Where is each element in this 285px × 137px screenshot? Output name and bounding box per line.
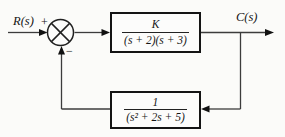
feedback-transfer-block: 1 (s² + 2s + 5) bbox=[110, 91, 201, 129]
forward-denominator: (s + 2)(s + 3) bbox=[122, 32, 189, 47]
input-signal-label: R(s) bbox=[13, 15, 34, 28]
summing-junction-plus-sign: + bbox=[41, 16, 48, 28]
forward-transfer-function: K (s + 2)(s + 3) bbox=[122, 18, 189, 47]
input-arrowhead bbox=[39, 29, 48, 36]
forward-numerator: K bbox=[122, 18, 189, 32]
feedback-block-arrowhead bbox=[201, 106, 210, 113]
feedback-numerator: 1 bbox=[124, 96, 187, 110]
forward-block-arrowhead bbox=[102, 29, 111, 36]
junction-feedback-arrowhead bbox=[58, 46, 65, 55]
summing-junction-minus-sign: − bbox=[66, 45, 73, 57]
block-diagram: K (s + 2)(s + 3) 1 (s² + 2s + 5) R(s) + … bbox=[0, 0, 285, 137]
output-signal-label: C(s) bbox=[236, 11, 258, 24]
summing-junction bbox=[48, 20, 74, 46]
output-arrowhead bbox=[265, 29, 274, 36]
feedback-transfer-function: 1 (s² + 2s + 5) bbox=[124, 96, 187, 125]
forward-transfer-block: K (s + 2)(s + 3) bbox=[110, 12, 201, 53]
feedback-denominator: (s² + 2s + 5) bbox=[124, 109, 187, 124]
